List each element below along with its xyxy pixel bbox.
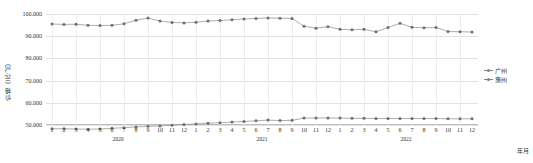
series-layer — [46, 14, 478, 125]
x-tick-label: 10 — [445, 127, 451, 133]
data-point — [195, 122, 198, 125]
x-tick-label: 4 — [375, 127, 378, 133]
data-point — [207, 122, 210, 125]
x-tick-label: 9 — [291, 127, 294, 133]
data-point — [75, 23, 78, 26]
data-point — [423, 26, 426, 29]
data-point — [471, 30, 474, 33]
data-point — [291, 119, 294, 122]
data-point — [315, 116, 318, 119]
data-point — [267, 119, 270, 122]
data-point — [267, 16, 270, 19]
data-point — [339, 28, 342, 31]
series-line-广州 — [52, 18, 472, 32]
x-tick-label: 12 — [181, 127, 187, 133]
data-point — [303, 25, 306, 28]
data-point — [123, 22, 126, 25]
x-tick-label: 6 — [111, 127, 114, 133]
data-point — [363, 28, 366, 31]
data-point — [447, 30, 450, 33]
x-axis-year-labels: 202020212022 — [46, 136, 478, 146]
data-point — [147, 16, 150, 19]
x-tick-label: 1 — [195, 127, 198, 133]
data-point — [171, 21, 174, 24]
x-tick-label: 4 — [231, 127, 234, 133]
x-tick-label: 9 — [435, 127, 438, 133]
data-point — [219, 19, 222, 22]
x-tick-label: 1 — [51, 127, 54, 133]
x-tick-label: 10 — [157, 127, 163, 133]
data-point — [279, 17, 282, 20]
y-tick-label: 60.000 — [2, 100, 46, 106]
data-point — [339, 117, 342, 120]
data-point — [435, 117, 438, 120]
data-point — [423, 117, 426, 120]
x-tick-label: 8 — [135, 127, 138, 133]
data-point — [435, 26, 438, 29]
x-year-label: 2022 — [400, 136, 411, 142]
x-tick-label: 1 — [339, 127, 342, 133]
data-point — [471, 117, 474, 120]
chart-container: 价格（元/㎡） 50.00060.00070.00080.00090.00010… — [0, 0, 533, 163]
y-gridline — [46, 125, 478, 126]
x-year-label: 2021 — [256, 136, 267, 142]
x-tick-label: 2 — [207, 127, 210, 133]
data-point — [207, 20, 210, 23]
legend-item-广州[interactable]: 广州 — [484, 66, 532, 75]
data-point — [255, 119, 258, 122]
data-point — [135, 19, 138, 22]
x-tick-label: 3 — [363, 127, 366, 133]
data-point — [447, 117, 450, 120]
x-tick-label: 5 — [99, 127, 102, 133]
data-point — [183, 21, 186, 24]
data-point — [51, 22, 54, 25]
legend-marker-icon — [484, 79, 493, 80]
data-point — [459, 117, 462, 120]
legend: 广州惠州 — [484, 66, 532, 84]
y-tick-label: 100.000 — [2, 11, 46, 17]
data-point — [195, 21, 198, 24]
data-point — [87, 24, 90, 27]
y-tick-label: 70.000 — [2, 78, 46, 84]
x-tick-label: 11 — [169, 127, 175, 133]
data-point — [375, 117, 378, 120]
y-tick-label: 50.000 — [2, 122, 46, 128]
x-tick-label: 3 — [75, 127, 78, 133]
y-tick-label: 90.000 — [2, 33, 46, 39]
data-point — [327, 116, 330, 119]
x-tick-label: 12 — [469, 127, 475, 133]
data-point — [183, 123, 186, 126]
data-point — [291, 17, 294, 20]
data-point — [231, 121, 234, 124]
x-tick-label: 4 — [87, 127, 90, 133]
data-point — [159, 20, 162, 23]
x-tick-label: 8 — [423, 127, 426, 133]
x-tick-label: 10 — [301, 127, 307, 133]
x-tick-label: 12 — [325, 127, 331, 133]
x-tick-label: 7 — [411, 127, 414, 133]
data-point — [279, 119, 282, 122]
x-tick-label: 8 — [279, 127, 282, 133]
x-tick-label: 11 — [313, 127, 319, 133]
y-tick-label: 80.000 — [2, 55, 46, 61]
data-point — [327, 25, 330, 28]
data-point — [219, 121, 222, 124]
data-point — [243, 120, 246, 123]
data-point — [231, 18, 234, 21]
data-point — [111, 24, 114, 27]
legend-item-惠州[interactable]: 惠州 — [484, 75, 532, 84]
data-point — [255, 17, 258, 20]
x-tick-label: 2 — [351, 127, 354, 133]
data-point — [399, 117, 402, 120]
legend-marker-icon — [484, 70, 493, 71]
legend-label: 广州 — [495, 66, 507, 75]
data-point — [243, 17, 246, 20]
x-tick-label: 11 — [457, 127, 463, 133]
data-point — [315, 27, 318, 30]
data-point — [351, 28, 354, 31]
data-point — [99, 24, 102, 27]
x-tick-label: 9 — [147, 127, 150, 133]
x-year-label: 2020 — [112, 136, 123, 142]
x-tick-label: 2 — [63, 127, 66, 133]
x-tick-label: 6 — [255, 127, 258, 133]
